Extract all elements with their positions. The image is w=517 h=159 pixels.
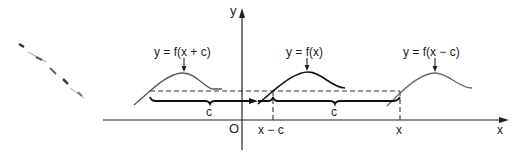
- y-axis: [239, 8, 245, 150]
- scratch-marks: [19, 44, 84, 98]
- tick-label-x: x: [396, 124, 402, 136]
- x-axis: [103, 117, 509, 123]
- curve-label-f-x-plus-c: y = f(x + c): [154, 46, 211, 58]
- pointer-arrow-f-x-plus-c-icon: [182, 58, 187, 72]
- y-axis-label: y: [230, 5, 237, 17]
- tick-label-x-minus-c: x − c: [258, 124, 284, 136]
- brace-right-c: [258, 97, 400, 104]
- brace-label-right-c: c: [331, 106, 337, 118]
- curve-label-f-x-minus-c: y = f(x − c): [403, 46, 460, 58]
- brace-label-left-c: c: [206, 106, 212, 118]
- pointer-arrow-f-x-icon: [305, 58, 310, 71]
- dashed-guides: [150, 91, 400, 120]
- brace-arrow-icon: [249, 98, 258, 104]
- origin-label: O: [229, 123, 239, 135]
- pointer-arrow-f-x-minus-c-icon: [433, 58, 438, 72]
- x-axis-label: x: [497, 124, 503, 136]
- y-axis-arrow-icon: [239, 8, 245, 18]
- curve-label-f-x: y = f(x): [286, 46, 323, 58]
